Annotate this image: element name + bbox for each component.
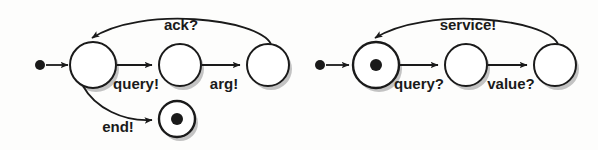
- state-idle[interactable]: [70, 42, 116, 88]
- arg-edge-label: arg!: [210, 75, 238, 92]
- initial-marker-dot: [35, 60, 45, 70]
- ack-edge-label: ack?: [164, 16, 198, 33]
- right-state-machine: query? value? service!: [315, 16, 579, 92]
- value-edge-label: value?: [487, 75, 535, 92]
- state-responding[interactable]: [534, 44, 576, 86]
- service-edge-label: service!: [440, 16, 497, 33]
- query-edge-label: query?: [394, 75, 444, 92]
- left-state-machine: query! arg! ack? end!: [35, 16, 292, 141]
- initial-marker-dot: [315, 60, 325, 70]
- state-waiting[interactable]: [159, 44, 201, 86]
- query-edge-label: query!: [113, 75, 159, 92]
- state-final-token: [171, 113, 183, 125]
- state-received[interactable]: [247, 44, 289, 86]
- state-ready-token: [370, 59, 382, 71]
- end-edge-label: end!: [102, 118, 134, 135]
- state-machine-figure: query! arg! ack? end!: [0, 0, 598, 150]
- state-serving[interactable]: [445, 44, 487, 86]
- diagram-canvas: query! arg! ack? end!: [0, 0, 598, 150]
